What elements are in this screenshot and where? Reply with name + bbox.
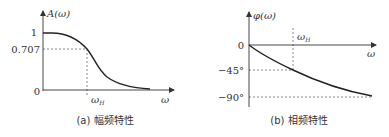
caption-b: (b) 相频特性 [270, 114, 327, 126]
tick-0: 0 [238, 40, 244, 51]
figure: A(ω) 1 0.707 0 ωH ω (a) 幅频特性 φ(ω) 0 −45°… [0, 0, 389, 137]
caption-a: (a) 幅频特性 [76, 114, 133, 126]
tick-1: 1 [31, 27, 37, 38]
tick-0707: 0.707 [11, 44, 40, 55]
amplitude-curve [43, 33, 150, 89]
tick-minus-90: −90° [218, 92, 244, 103]
tick-minus-45: −45° [218, 65, 244, 76]
x-axis-label: ω [161, 94, 169, 105]
omega-h-label: ωH [297, 31, 311, 43]
phase-curve [249, 45, 372, 96]
y-axis-label: A(ω) [46, 8, 70, 19]
omega-h-label: ωH [91, 94, 105, 106]
tick-0: 0 [34, 86, 40, 97]
y-axis-label: φ(ω) [253, 10, 276, 21]
amplitude-chart: A(ω) 1 0.707 0 ωH ω (a) 幅频特性 [11, 8, 174, 126]
x-axis-label: ω [367, 48, 375, 59]
phase-chart: φ(ω) 0 −45° −90° ωH ω (b) 相频特性 [218, 10, 376, 126]
